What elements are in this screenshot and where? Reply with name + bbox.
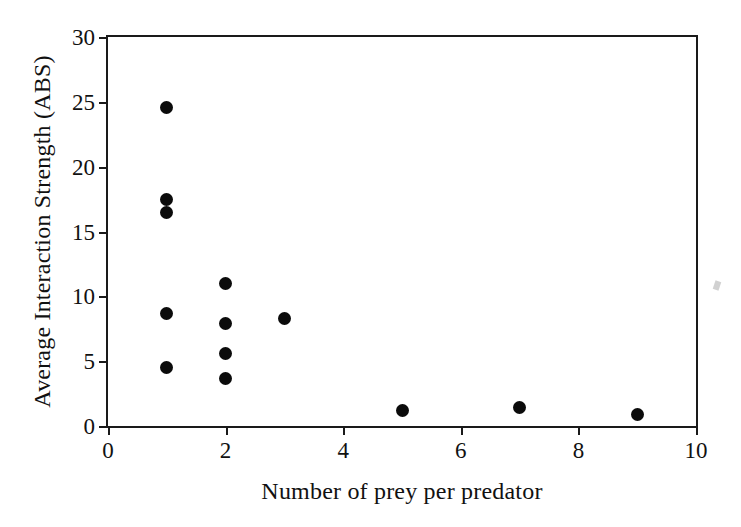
y-axis-tick <box>99 426 108 428</box>
y-axis-tick <box>99 37 108 39</box>
x-axis-tick-label: 0 <box>102 439 114 462</box>
plot-area: 0510152025300246810 <box>106 35 698 428</box>
y-axis-title: Average Interaction Strength (ABS) <box>22 35 62 428</box>
data-point <box>513 401 526 414</box>
x-axis-tick-label: 10 <box>685 439 708 462</box>
y-axis-tick-label: 10 <box>72 285 95 308</box>
y-axis-tick <box>99 296 108 298</box>
x-axis-tick-label: 8 <box>573 439 585 462</box>
y-axis-tick <box>99 361 108 363</box>
data-point <box>278 312 291 325</box>
x-axis-tick <box>108 426 110 435</box>
data-point <box>160 101 173 114</box>
y-axis-tick-label: 25 <box>72 90 95 113</box>
y-axis-tick <box>99 167 108 169</box>
x-axis-tick <box>696 426 698 435</box>
y-axis-tick-label: 20 <box>72 155 95 178</box>
data-point <box>219 372 232 385</box>
x-axis-title: Number of prey per predator <box>106 478 698 505</box>
data-point <box>160 193 173 206</box>
y-axis-tick-label: 30 <box>72 26 95 49</box>
data-point <box>219 347 232 360</box>
x-axis-tick-label: 4 <box>337 439 349 462</box>
x-axis-tick-label: 6 <box>455 439 467 462</box>
data-point <box>631 408 644 421</box>
scan-artifact-speck <box>713 280 721 290</box>
data-point <box>396 404 409 417</box>
x-axis-tick <box>343 426 345 435</box>
data-point <box>160 206 173 219</box>
x-axis-tick <box>461 426 463 435</box>
y-axis-tick-label: 5 <box>84 350 96 373</box>
y-axis-tick <box>99 232 108 234</box>
x-axis-tick-label: 2 <box>220 439 232 462</box>
x-axis-tick <box>578 426 580 435</box>
x-axis-tick <box>226 426 228 435</box>
data-point <box>219 317 232 330</box>
scatter-plot-figure: 0510152025300246810 Average Interaction … <box>0 0 741 527</box>
y-axis-tick-label: 0 <box>84 415 96 438</box>
y-axis-tick <box>99 102 108 104</box>
y-axis-tick-label: 15 <box>72 220 95 243</box>
data-point <box>219 277 232 290</box>
data-point <box>160 361 173 374</box>
data-point <box>160 307 173 320</box>
